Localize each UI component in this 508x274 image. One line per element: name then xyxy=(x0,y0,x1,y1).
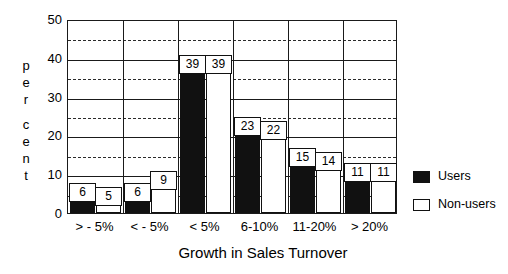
x-axis-title: Growth in Sales Turnover xyxy=(0,244,508,262)
x-tick-label: > - 5% xyxy=(67,219,122,235)
y-tick-label: 40 xyxy=(34,52,62,65)
legend-swatch-users xyxy=(413,171,430,183)
bar-value-label: 15 xyxy=(289,148,316,167)
legend-label: Users xyxy=(438,170,471,183)
y-axis-label: percent xyxy=(18,57,34,184)
y-label-letter: n xyxy=(22,150,29,167)
bar-users xyxy=(180,62,205,213)
bar-group: 3939 xyxy=(178,21,233,213)
y-axis-ticks: 50403020100 xyxy=(34,0,62,274)
bar-value-label: 22 xyxy=(260,121,287,140)
bar-group: 2322 xyxy=(233,21,288,213)
bar-value-label: 6 xyxy=(124,183,151,202)
bar-non-users xyxy=(261,128,286,213)
legend-label: Non-users xyxy=(438,198,496,211)
bar-chart: percent 50403020100 65693939232215141111… xyxy=(0,0,508,274)
bar-value-label: 39 xyxy=(179,55,206,74)
bar-group: 65 xyxy=(68,21,123,213)
bar-value-label: 14 xyxy=(315,152,342,171)
y-label-letter: t xyxy=(24,167,28,184)
legend-swatch-nonusers xyxy=(413,199,430,211)
y-label-letter: e xyxy=(22,133,29,150)
bar-value-label: 11 xyxy=(370,163,397,182)
bar-value-label: 23 xyxy=(234,117,261,136)
bar-users xyxy=(235,124,260,213)
legend-item: Users xyxy=(413,170,508,183)
plot-area: 65693939232215141111 xyxy=(67,20,397,214)
chart-legend: UsersNon-users xyxy=(413,170,508,226)
bar-value-label: 9 xyxy=(150,171,177,190)
bar-non-users xyxy=(206,62,231,213)
bar-value-label: 39 xyxy=(205,55,232,74)
bar-group: 1514 xyxy=(288,21,343,213)
x-tick-label: > 20% xyxy=(342,219,397,235)
x-tick-label: 11-20% xyxy=(287,219,342,235)
y-tick-label: 30 xyxy=(34,91,62,104)
y-tick-label: 10 xyxy=(34,168,62,181)
legend-item: Non-users xyxy=(413,198,508,211)
y-label-letter: c xyxy=(23,116,30,133)
x-tick-label: < 5% xyxy=(177,219,232,235)
bar-group: 69 xyxy=(123,21,178,213)
x-tick-label: < - 5% xyxy=(122,219,177,235)
y-label-letter: r xyxy=(24,91,28,108)
y-label-letter: p xyxy=(22,57,29,74)
y-tick-label: 20 xyxy=(34,129,62,142)
bar-value-label: 5 xyxy=(95,187,122,206)
y-label-letter: e xyxy=(22,74,29,91)
bar-group: 1111 xyxy=(343,21,398,213)
y-tick-label: 0 xyxy=(34,207,62,220)
bar-value-label: 11 xyxy=(344,163,371,182)
x-axis-tick-labels: > - 5%< - 5%< 5%6-10%11-20%> 20% xyxy=(67,219,397,239)
y-tick-label: 50 xyxy=(34,13,62,26)
x-tick-label: 6-10% xyxy=(232,219,287,235)
bar-value-label: 6 xyxy=(69,183,96,202)
